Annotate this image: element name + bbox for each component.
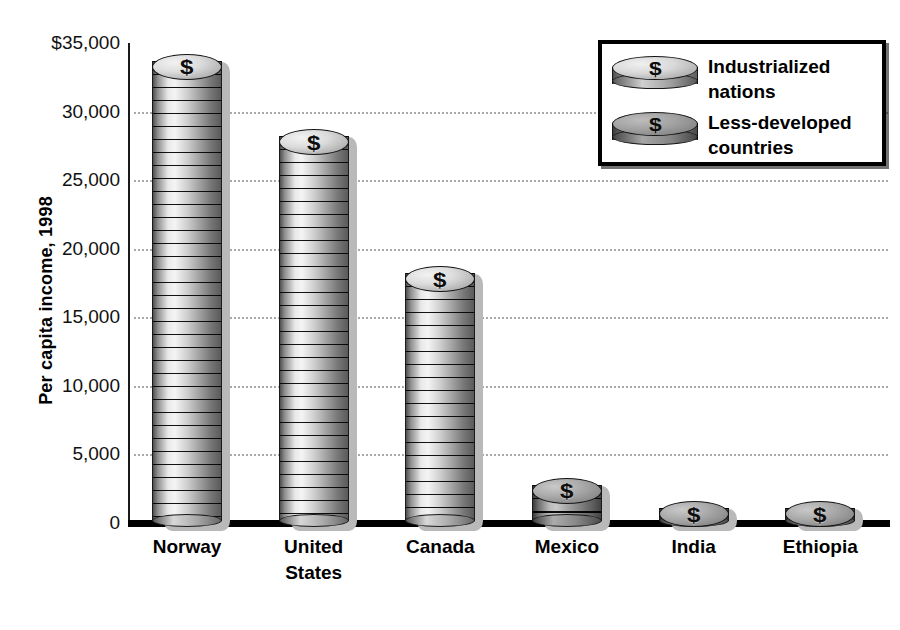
x-label-line: United: [254, 534, 374, 560]
coin-stack-base: [405, 514, 475, 527]
y-tick-label: 25,000: [20, 169, 120, 191]
coin-stack: $: [532, 478, 602, 527]
coin-top-face: $: [659, 501, 729, 527]
coin-top-face: $: [785, 501, 855, 527]
coin-stack: $: [785, 501, 855, 527]
coin-stack-body: [405, 273, 475, 521]
y-tick-label: 20,000: [20, 238, 120, 260]
y-tick-label: 0: [20, 512, 120, 534]
y-axis-tick-labels: $35,00030,00025,00020,00015,00010,0005,0…: [10, 0, 120, 630]
y-tick-label: $35,000: [20, 32, 120, 54]
x-axis-baseline: [128, 520, 890, 527]
chart-legend: $Industrialized nations$Less-developed c…: [598, 40, 886, 166]
coin-top-face: $: [532, 478, 602, 504]
coin-stack: $: [405, 266, 475, 527]
legend-label: Industrialized nations: [708, 54, 830, 104]
x-label-line: States: [254, 560, 374, 586]
coin-stack: $: [152, 54, 222, 527]
dollar-sign-icon: $: [434, 269, 447, 290]
x-label-canada: Canada: [380, 534, 500, 560]
coin-light-icon: $: [612, 56, 698, 90]
coin-stack-bar-chart: Per capita income, 1998 $35,00030,00025,…: [0, 0, 900, 630]
dollar-sign-icon: $: [180, 56, 193, 77]
coin-stack: $: [659, 501, 729, 527]
x-label-india: India: [634, 534, 754, 560]
y-tick-label: 5,000: [20, 443, 120, 465]
x-label-line: India: [634, 534, 754, 560]
coin-face: $: [612, 56, 698, 80]
coin-top-face: $: [279, 129, 349, 155]
dollar-sign-icon: $: [560, 480, 573, 501]
y-tick-label: 30,000: [20, 101, 120, 123]
coin-dark-icon: $: [612, 112, 698, 146]
bar-norway[interactable]: $: [152, 46, 222, 527]
x-label-united-states: UnitedStates: [254, 534, 374, 586]
bar-mexico[interactable]: $: [532, 470, 602, 527]
x-label-mexico: Mexico: [507, 534, 627, 560]
legend-label: Less-developed countries: [708, 110, 852, 160]
x-label-line: Mexico: [507, 534, 627, 560]
coin-stack-base: [279, 514, 349, 527]
dollar-sign-icon: $: [649, 59, 662, 78]
x-label-ethiopia: Ethiopia: [760, 534, 880, 560]
coin-face: $: [612, 112, 698, 136]
coin-stack-base: [532, 514, 602, 527]
coin-stack-base: [152, 514, 222, 527]
coin-top-face: $: [152, 54, 222, 80]
x-axis-category-labels: NorwayUnitedStatesCanadaMexicoIndiaEthio…: [128, 534, 888, 624]
y-tick-label: 10,000: [20, 375, 120, 397]
bar-india[interactable]: $: [659, 493, 729, 527]
x-label-line: Canada: [380, 534, 500, 560]
x-label-line: Norway: [127, 534, 247, 560]
dollar-sign-icon: $: [687, 504, 700, 525]
dollar-sign-icon: $: [649, 115, 662, 134]
coin-stack: $: [279, 129, 349, 527]
legend-item-less-developed[interactable]: $Less-developed countries: [612, 110, 852, 160]
bar-ethiopia[interactable]: $: [785, 493, 855, 527]
bar-canada[interactable]: $: [405, 258, 475, 527]
x-label-line: Ethiopia: [760, 534, 880, 560]
coin-stack-body: [279, 136, 349, 521]
x-label-norway: Norway: [127, 534, 247, 560]
y-tick-label: 15,000: [20, 306, 120, 328]
dollar-sign-icon: $: [307, 132, 320, 153]
dollar-sign-icon: $: [814, 504, 827, 525]
legend-item-industrialized[interactable]: $Industrialized nations: [612, 54, 830, 104]
bar-united-states[interactable]: $: [279, 121, 349, 527]
coin-stack-body: [152, 61, 222, 521]
